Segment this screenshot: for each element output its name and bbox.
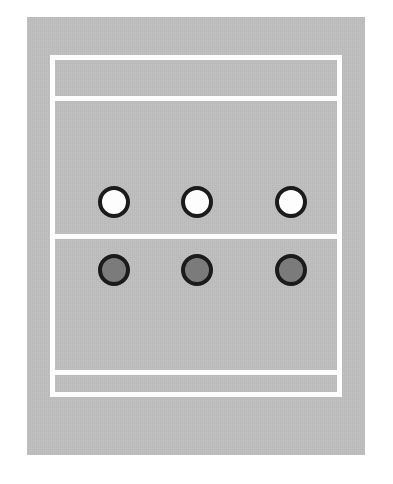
player-token-white-3[interactable]: White Player 3 [275,186,307,218]
attack-line-bottom [50,370,342,375]
player-token-white-2[interactable]: White Player 2 [181,186,213,218]
court-diagram-canvas: Volleyball Court Player Formation Diagra… [0,0,393,484]
court-surface: White Player 1 White Player 2 White Play… [27,17,365,455]
center-line [50,234,342,239]
player-token-gray-2[interactable]: Gray Player 2 [181,254,213,286]
player-token-white-1[interactable]: White Player 1 [98,186,130,218]
attack-line-top [50,96,342,101]
court-boundary-lines [50,55,342,397]
player-token-gray-1[interactable]: Gray Player 1 [98,254,130,286]
player-token-gray-3[interactable]: Gray Player 3 [275,254,307,286]
